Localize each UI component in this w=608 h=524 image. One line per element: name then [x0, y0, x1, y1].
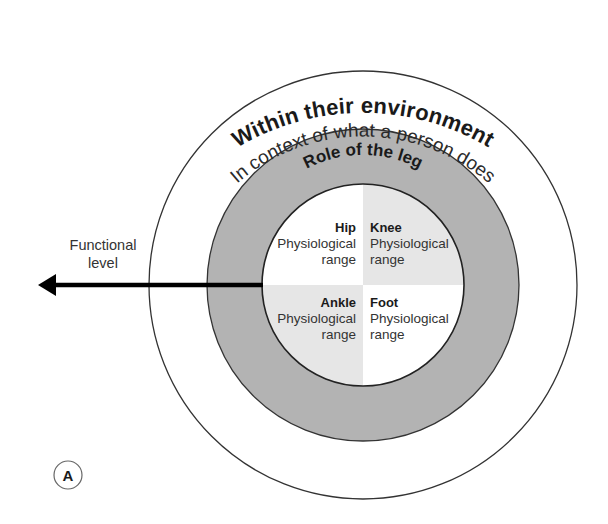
quadrant-ankle-line2: range	[321, 327, 356, 342]
quadrant-foot-line1: Physiological	[370, 311, 449, 326]
quadrant-hip-line1: Physiological	[277, 236, 356, 251]
inner-circle-quadrants	[262, 184, 464, 386]
quadrant-ankle-line1: Physiological	[277, 311, 356, 326]
quadrant-knee-line2: range	[370, 252, 405, 267]
quadrant-hip-line2: range	[321, 252, 356, 267]
quadrant-ankle-title: Ankle	[321, 295, 356, 310]
panel-label-text: A	[63, 467, 74, 484]
functional-level-label-line2: level	[88, 255, 118, 271]
quadrant-foot-title: Foot	[370, 295, 399, 310]
quadrant-hip-title: Hip	[335, 220, 356, 235]
functional-level-label-line1: Functional	[70, 237, 137, 253]
arrow-left-head-icon	[38, 274, 56, 296]
panel-label-badge: A	[54, 461, 82, 489]
quadrant-knee-title: Knee	[370, 220, 402, 235]
diagram-canvas: Within their environment In context of w…	[0, 0, 608, 524]
quadrant-foot-line2: range	[370, 327, 405, 342]
quadrant-knee-line1: Physiological	[370, 236, 449, 251]
